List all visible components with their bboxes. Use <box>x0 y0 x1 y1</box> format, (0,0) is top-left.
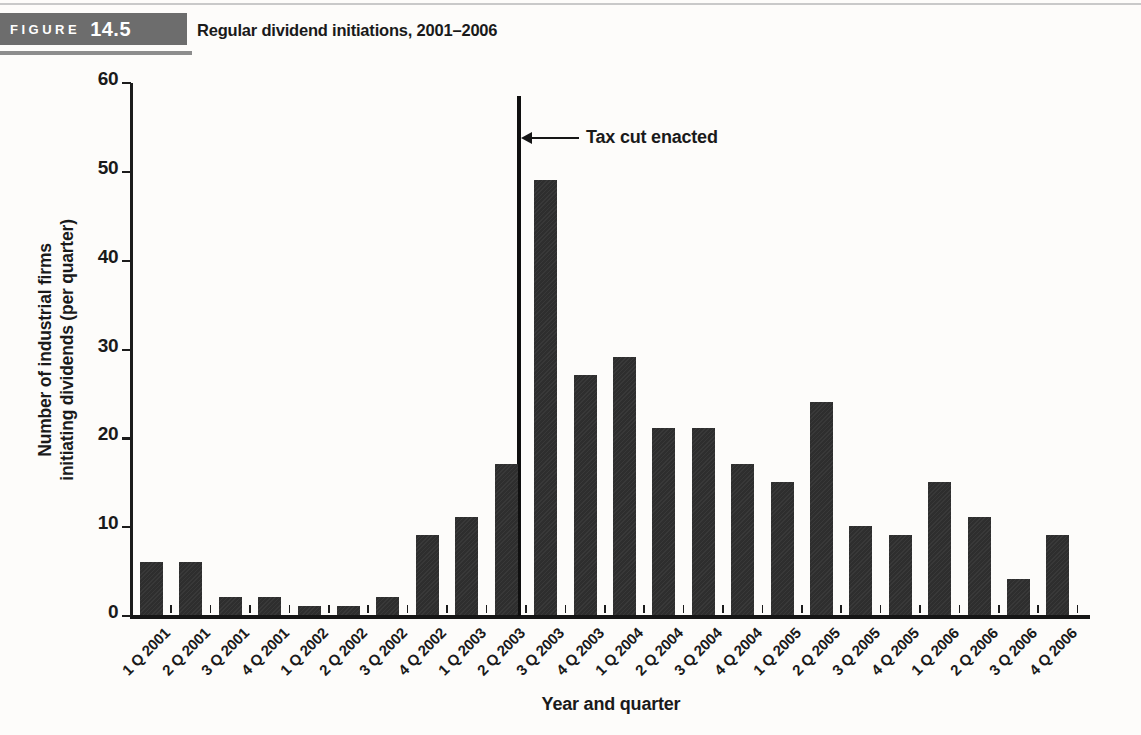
x-minor-tick <box>683 605 685 613</box>
bar-4-q-2005 <box>889 535 912 615</box>
bar-2-q-2004 <box>652 428 675 615</box>
y-tick-label: 60 <box>76 67 118 91</box>
top-divider <box>0 3 1141 5</box>
x-minor-tick <box>170 605 172 613</box>
x-minor-tick <box>367 605 369 613</box>
y-tick <box>122 260 131 262</box>
x-minor-tick <box>289 605 291 613</box>
x-minor-tick <box>880 605 882 613</box>
bar-4-q-2004 <box>731 464 754 615</box>
x-minor-tick <box>407 605 409 613</box>
x-minor-tick <box>643 605 645 613</box>
bar-1-q-2002 <box>298 606 321 615</box>
y-tick-label: 0 <box>76 600 118 624</box>
y-tick-label: 50 <box>76 156 118 180</box>
bar-3-q-2006 <box>1007 579 1030 615</box>
y-tick <box>122 171 131 173</box>
y-tick-label: 10 <box>76 511 118 535</box>
bar-3-q-2003 <box>534 180 557 615</box>
x-minor-tick <box>762 605 764 613</box>
y-tick-label: 30 <box>76 334 118 358</box>
bar-2-q-2003 <box>495 464 518 615</box>
y-tick-label: 40 <box>76 245 118 269</box>
y-tick <box>122 82 131 84</box>
x-minor-tick <box>959 605 961 613</box>
x-minor-tick <box>801 605 803 613</box>
x-minor-tick <box>998 605 1000 613</box>
bar-2-q-2005 <box>810 402 833 615</box>
y-axis-title: Number of industrial firms initiating di… <box>35 219 79 481</box>
figure-label: FIGURE <box>0 22 80 37</box>
bar-4-q-2006 <box>1046 535 1069 615</box>
bar-4-q-2001 <box>258 597 281 615</box>
x-minor-tick <box>722 605 724 613</box>
y-tick <box>122 437 131 439</box>
plot-area: Tax cut enacted 1 Q 20012 Q 20013 Q 2001… <box>132 83 1090 616</box>
x-minor-tick <box>604 605 606 613</box>
x-minor-tick <box>840 605 842 613</box>
figure-underline <box>0 51 192 55</box>
x-minor-tick <box>565 605 567 613</box>
x-minor-tick <box>1037 605 1039 613</box>
y-tick <box>122 349 131 351</box>
x-minor-tick <box>210 605 212 613</box>
annotation-text: Tax cut enacted <box>586 127 718 148</box>
x-minor-tick <box>919 605 921 613</box>
x-minor-tick <box>1077 605 1079 613</box>
figure-number: 14.5 <box>90 18 131 41</box>
x-minor-tick <box>249 605 251 613</box>
bar-1-q-2003 <box>455 517 478 615</box>
bar-4-q-2002 <box>416 535 439 615</box>
bar-1-q-2004 <box>613 357 636 615</box>
bar-3-q-2001 <box>219 597 242 615</box>
x-minor-tick <box>328 605 330 613</box>
bar-2-q-2006 <box>968 517 991 615</box>
x-axis-line <box>130 615 1090 619</box>
x-minor-tick <box>446 605 448 613</box>
bar-1-q-2001 <box>140 562 163 615</box>
y-tick <box>122 615 131 617</box>
bar-3-q-2005 <box>849 526 872 615</box>
bar-2-q-2001 <box>179 562 202 615</box>
bar-1-q-2005 <box>771 482 794 615</box>
figure-label-box: FIGURE 14.5 <box>0 13 187 45</box>
bar-3-q-2004 <box>692 428 715 615</box>
annotation-arrow-line <box>531 137 579 139</box>
figure-title: Regular dividend initiations, 2001–2006 <box>197 21 497 40</box>
y-axis-title-line1: Number of industrial firms <box>35 219 57 481</box>
bar-2-q-2002 <box>337 606 360 615</box>
x-minor-tick <box>525 605 527 613</box>
y-tick <box>122 526 131 528</box>
bar-4-q-2003 <box>574 375 597 615</box>
y-tick-label: 20 <box>76 422 118 446</box>
figure-page: FIGURE 14.5 Regular dividend initiations… <box>0 0 1141 735</box>
bar-3-q-2002 <box>376 597 399 615</box>
x-axis-title: Year and quarter <box>542 694 681 715</box>
bar-1-q-2006 <box>928 482 951 615</box>
x-minor-tick <box>486 605 488 613</box>
